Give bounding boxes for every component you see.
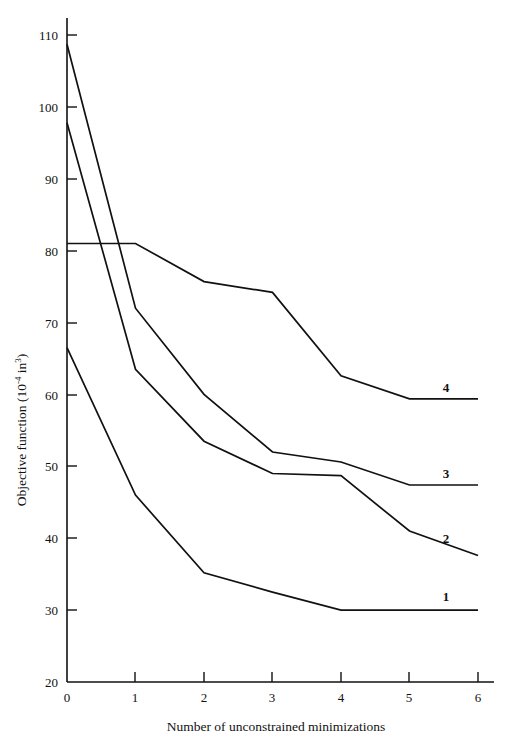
x-axis-ticks — [135, 672, 478, 682]
data-series-group — [67, 44, 478, 610]
x-tick-label-0: 0 — [64, 690, 71, 705]
x-axis-title: Number of unconstrained minimizations — [167, 719, 386, 734]
y-tick-label-110: 110 — [39, 28, 58, 43]
y-axis-tick-labels: 110 100 90 80 70 60 50 40 30 20 — [39, 28, 59, 690]
y-tick-label-30: 30 — [45, 603, 58, 618]
series-labels-group: 4 3 2 1 — [443, 380, 450, 604]
line-chart-svg: 110 100 90 80 70 60 50 40 30 20 0 1 2 3 … — [0, 0, 518, 744]
y-tick-label-100: 100 — [39, 100, 59, 115]
x-tick-label-5: 5 — [406, 690, 413, 705]
y-tick-label-60: 60 — [45, 388, 58, 403]
x-tick-label-4: 4 — [338, 690, 345, 705]
x-tick-label-2: 2 — [201, 690, 208, 705]
y-tick-label-90: 90 — [45, 172, 58, 187]
x-tick-label-6: 6 — [475, 690, 482, 705]
svg-text:Objective function (10-4 in3): Objective function (10-4 in3) — [13, 354, 29, 507]
series-line-4 — [67, 244, 478, 399]
x-axis-tick-labels: 0 1 2 3 4 5 6 — [64, 690, 482, 705]
series-label-2: 2 — [443, 531, 450, 546]
series-line-1 — [67, 348, 478, 610]
x-tick-label-1: 1 — [132, 690, 139, 705]
y-axis-title: Objective function (10-4 in3) — [13, 354, 29, 507]
series-label-3: 3 — [443, 466, 450, 481]
y-axis-title-close: ) — [14, 354, 29, 359]
y-axis-title-mid: in — [14, 362, 29, 376]
series-label-1: 1 — [443, 589, 450, 604]
y-tick-label-40: 40 — [45, 531, 58, 546]
series-line-2 — [67, 123, 478, 556]
y-tick-label-20: 20 — [45, 675, 58, 690]
chart-figure: 110 100 90 80 70 60 50 40 30 20 0 1 2 3 … — [0, 0, 518, 744]
y-tick-label-50: 50 — [45, 459, 58, 474]
series-line-3 — [67, 44, 478, 485]
x-tick-label-3: 3 — [269, 690, 276, 705]
series-label-4: 4 — [443, 380, 450, 395]
y-tick-label-80: 80 — [45, 244, 58, 259]
y-axis-ticks — [67, 35, 77, 610]
y-axis-title-main: Objective function (10 — [14, 384, 29, 506]
y-tick-label-70: 70 — [45, 316, 58, 331]
